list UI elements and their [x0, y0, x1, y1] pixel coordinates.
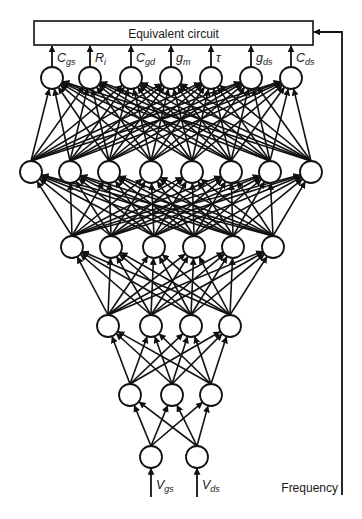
equivalent-circuit-label: Equivalent circuit [128, 27, 219, 41]
hidden-2-node [61, 236, 83, 258]
output-node [41, 67, 63, 89]
frequency-feed: Frequency [281, 32, 342, 495]
hidden-2-node [222, 236, 244, 258]
input-label: Vds [202, 478, 220, 494]
connection-edge [191, 258, 193, 315]
hidden-4-node [119, 384, 141, 406]
hidden-1-node [220, 161, 242, 183]
output-label: Cgs [57, 51, 76, 67]
frequency-arrow [314, 32, 342, 495]
hidden-4-node [200, 384, 222, 406]
hidden-1-node [20, 161, 42, 183]
connection-edge [151, 258, 153, 315]
hidden-1-node [140, 161, 162, 183]
connection-edge [231, 183, 233, 236]
hidden-1-node [259, 161, 281, 183]
hidden-1-node [300, 161, 322, 183]
input-node [186, 446, 208, 468]
output-node [280, 67, 302, 89]
output-node [79, 67, 101, 89]
connection-edge [70, 183, 72, 236]
hidden-1-node [181, 161, 203, 183]
output-label: Cgd [136, 51, 156, 67]
output-label: gm [176, 51, 191, 67]
hidden-2-node [100, 236, 122, 258]
hidden-1-node [98, 161, 120, 183]
connection-edge [211, 337, 226, 384]
hidden-3-node [219, 315, 241, 337]
hidden-4-node [161, 384, 183, 406]
connection-edge [230, 257, 267, 315]
input-label: Vgs [156, 478, 174, 494]
output-node [200, 67, 222, 89]
output-node [120, 67, 142, 89]
hidden-3-node [97, 315, 119, 337]
frequency-label: Frequency [281, 481, 338, 495]
network-nodes [20, 67, 322, 468]
input-node [140, 446, 162, 468]
connection-edge [134, 406, 151, 446]
connection-edge [31, 89, 49, 161]
connection-edge [197, 406, 208, 446]
hidden-2-node [183, 236, 205, 258]
output-label: τ [216, 51, 222, 65]
output-label: Cds [296, 51, 315, 67]
equivalent-circuit-box: Equivalent circuit [34, 21, 313, 45]
output-parameter-labels: CgsRiCgdgmτgdsCds [57, 51, 315, 67]
connection-edge [271, 183, 273, 236]
output-label: gds [256, 51, 273, 67]
connection-edge [109, 183, 111, 236]
neural-network-diagram: Equivalent circuit CgsRiCgdgmτgdsCds Vgs… [0, 0, 362, 519]
connection-edge [230, 258, 232, 315]
hidden-2-node [143, 236, 165, 258]
hidden-3-node [180, 315, 202, 337]
output-node [240, 67, 262, 89]
output-label: Ri [95, 51, 107, 67]
connection-edge [177, 405, 197, 446]
hidden-2-node [262, 236, 284, 258]
hidden-3-node [140, 315, 162, 337]
hidden-1-node [59, 161, 81, 183]
input-labels: VgsVds [156, 478, 220, 494]
output-node [160, 67, 182, 89]
